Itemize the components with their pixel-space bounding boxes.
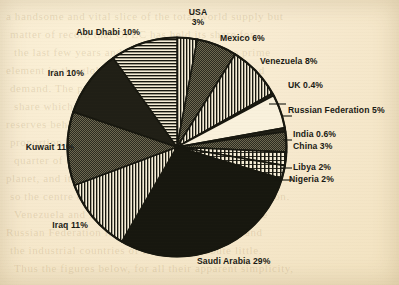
- slice-label-kuwait: Kuwait 11%: [2, 142, 74, 152]
- slice-label-abudhabi: Abu Dhabi 10%: [56, 27, 140, 37]
- slice-label-mexico: Mexico 6%: [220, 33, 265, 43]
- pie-slices: [68, 38, 287, 257]
- slice-label-venezuela: Venezuela 8%: [260, 56, 318, 66]
- slice-label-uk: UK 0.4%: [288, 80, 323, 90]
- slice-label-usa-value: 3%: [192, 17, 205, 27]
- slice-label-saudi: Saudi Arabia 29%: [197, 256, 270, 266]
- slice-label-china: China 3%: [293, 141, 332, 151]
- slice-label-nigeria: Nigeria 2%: [289, 174, 334, 184]
- slice-label-libya: Libya 2%: [293, 162, 331, 172]
- slice-label-usa-name: USA: [189, 7, 207, 17]
- pie-chart: USA 3% Mexico 6% Venezuela 8% UK 0.4% Ru…: [0, 0, 399, 285]
- slice-label-india: India 0.6%: [293, 129, 336, 139]
- slice-label-usa: USA 3%: [176, 7, 220, 27]
- scanned-page: a handsome and vital slice of the total …: [0, 0, 399, 285]
- slice-label-russia: Russian Federation 5%: [288, 105, 385, 115]
- slice-label-iraq: Iraq 11%: [16, 220, 88, 230]
- slice-label-iran: Iran 10%: [18, 68, 84, 78]
